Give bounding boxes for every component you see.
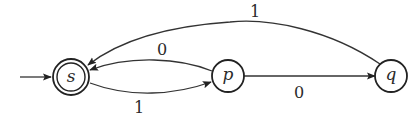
automaton-diagram: 1 0 1 0 s p q [0,0,420,125]
edge-label-s-p: 1 [134,98,144,117]
state-p-label: p [223,64,234,84]
state-s: s [53,59,89,95]
state-q-label: q [386,64,397,84]
edge-label-p-q: 0 [294,83,304,102]
edge-p-to-q: 0 [244,76,375,102]
edge-label-p-s: 0 [157,40,167,59]
state-p: p [212,60,244,92]
state-s-label: s [67,66,76,86]
edge-s-to-p: 1 [90,82,211,117]
state-q: q [375,60,407,92]
edge-q-to-s: 1 [88,2,380,65]
edge-label-q-s: 1 [250,2,260,21]
edge-p-to-s: 0 [90,40,212,71]
